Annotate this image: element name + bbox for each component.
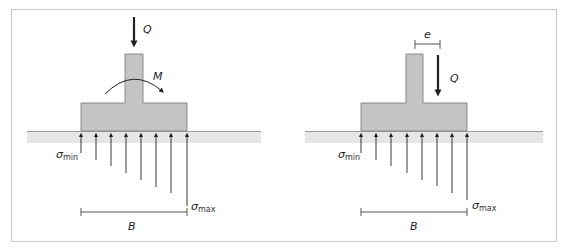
width-b-label: B: [128, 220, 136, 233]
footing-shape: [81, 54, 187, 131]
ground-band: [305, 131, 543, 143]
ground-band: [27, 131, 261, 143]
right-diagram: e Q σmin σmax B: [305, 28, 543, 233]
width-dimension: [81, 208, 187, 216]
footing-shape: [361, 54, 467, 131]
soil-pressure-arrows: [361, 135, 467, 200]
eccentricity-e-label: e: [424, 28, 431, 41]
footing-figure: Q M σmin σmax B: [0, 0, 568, 251]
sigma-max-label: σmax: [191, 200, 216, 214]
soil-pressure-arrows: [81, 135, 187, 206]
width-b-label: B: [410, 220, 418, 233]
load-q-label: Q: [143, 23, 152, 36]
sigma-min-label: σmin: [56, 148, 78, 162]
sigma-min-label: σmin: [338, 148, 360, 162]
width-dimension: [361, 208, 467, 216]
load-q-label: Q: [450, 72, 459, 85]
eccentricity-dimension: [415, 40, 440, 49]
moment-m-label: M: [153, 70, 163, 83]
left-diagram: Q M σmin σmax B: [27, 17, 261, 233]
sigma-max-label: σmax: [472, 199, 497, 213]
